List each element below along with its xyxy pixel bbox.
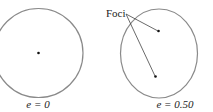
ellipse-figure: Foci e = 0.50	[106, 7, 198, 110]
circle-caption: e = 0	[26, 98, 50, 110]
circle-figure: e = 0	[0, 9, 83, 111]
leader-line-lower	[126, 14, 155, 76]
circle-center-point	[37, 52, 40, 55]
ellipse-outline	[121, 9, 198, 98]
foci-label: Foci	[106, 7, 126, 19]
eccentricity-diagram: e = 0 Foci e = 0.50	[0, 0, 213, 112]
ellipse-caption: e = 0.50	[156, 98, 194, 110]
circle-outline	[0, 9, 83, 98]
